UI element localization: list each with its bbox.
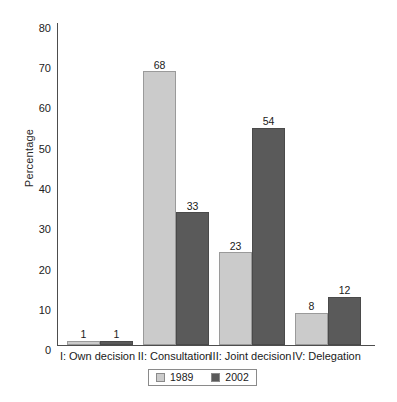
- y-tick-label: 30: [20, 224, 51, 235]
- legend-label-1989: 1989: [170, 372, 193, 383]
- bar-value: 1: [81, 329, 87, 340]
- bar-2002-cat4[interactable]: 12: [328, 297, 361, 345]
- y-tick-label: 60: [20, 103, 51, 114]
- bar-2002-cat2[interactable]: 33: [176, 212, 209, 345]
- bar-value: 68: [154, 60, 166, 71]
- y-tick-40: 40: [20, 184, 51, 185]
- y-axis-title: Percentage: [23, 103, 35, 213]
- bar-1989-cat4[interactable]: 8: [295, 313, 328, 345]
- legend-swatch-icon-2002: [211, 373, 220, 382]
- y-tick-label: 50: [20, 144, 51, 155]
- y-tick-label: 70: [20, 63, 51, 74]
- bar-1989-cat3[interactable]: 23: [219, 252, 252, 345]
- bar-value: 33: [187, 201, 199, 212]
- legend-swatch-icon-1989: [156, 373, 165, 382]
- bar-1989-cat2[interactable]: 68: [143, 71, 176, 345]
- x-tick-label-4: IV: Delegation: [264, 350, 389, 362]
- y-tick-label: 20: [20, 265, 51, 276]
- bar-value: 1: [114, 329, 120, 340]
- y-tick-10: 10: [20, 305, 51, 306]
- bar-value: 8: [309, 301, 315, 312]
- y-tick-60: 60: [20, 103, 51, 104]
- y-tick-label: 10: [20, 305, 51, 316]
- y-tick-20: 20: [20, 265, 51, 266]
- legend-entry-2002[interactable]: 2002: [211, 372, 248, 383]
- bar-group-4: 8 12: [293, 23, 363, 345]
- bar-2002-cat3[interactable]: 54: [252, 128, 285, 345]
- legend-label-2002: 2002: [225, 372, 248, 383]
- y-tick-30: 30: [20, 224, 51, 225]
- bar-group-1: 1 1: [65, 23, 135, 345]
- y-tick-label: 40: [20, 184, 51, 195]
- y-tick-0: 0: [20, 345, 51, 346]
- bar-value: 54: [263, 116, 275, 127]
- bar-1989-cat1[interactable]: 1: [67, 341, 100, 345]
- y-tick-70: 70: [20, 63, 51, 64]
- bar-group-2: 68 33: [141, 23, 211, 345]
- bar-value: 12: [339, 285, 351, 296]
- x-axis-line: [57, 345, 375, 346]
- bar-chart: Percentage 80 70 60 50 40 30 20 10 0 1 1…: [0, 0, 397, 402]
- y-tick-label: 80: [20, 23, 51, 34]
- y-tick-80: 80: [20, 23, 51, 24]
- bar-2002-cat1[interactable]: 1: [100, 341, 133, 345]
- legend-entry-1989[interactable]: 1989: [156, 372, 193, 383]
- chart-legend: 1989 2002: [148, 369, 257, 386]
- bar-group-3: 23 54: [217, 23, 287, 345]
- y-tick-50: 50: [20, 144, 51, 145]
- bar-value: 23: [230, 241, 242, 252]
- plot-area: 1 1 68 33 23 54 8: [58, 23, 375, 345]
